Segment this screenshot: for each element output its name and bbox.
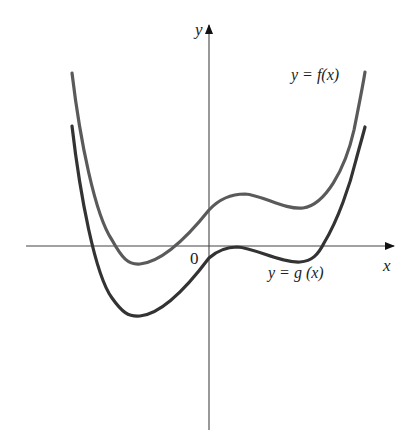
x-axis-label: x	[382, 256, 391, 275]
curve-g	[72, 126, 365, 316]
curve-f-label: y = f(x)	[289, 66, 339, 84]
origin-label: 0	[190, 249, 199, 268]
y-axis-label: y	[193, 20, 203, 39]
curve-f	[72, 72, 365, 264]
curve-g-label: y = g (x)	[266, 264, 324, 282]
function-graph: y x 0 y = f(x) y = g (x)	[0, 0, 416, 446]
